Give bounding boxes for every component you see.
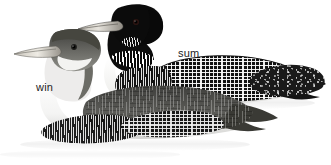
bird-winter-loon — [0, 30, 290, 165]
winter-loon-bill — [14, 46, 61, 57]
loon-illustration-plate: sum win — [0, 0, 331, 165]
label-summer-plumage: sum — [178, 48, 199, 59]
summer-loon-eye-highlight — [134, 20, 135, 21]
winter-loon-eye-highlight — [72, 45, 73, 46]
label-winter-plumage: win — [36, 82, 53, 93]
